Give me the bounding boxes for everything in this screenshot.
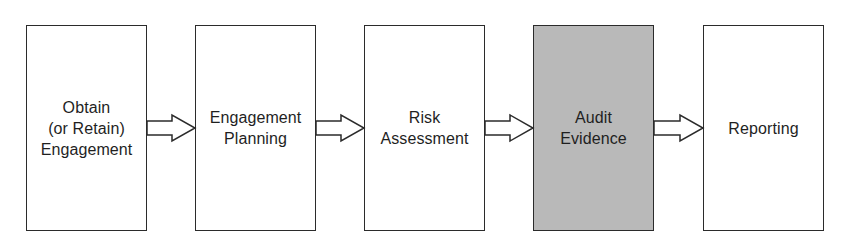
step-audit-evidence: Audit Evidence (533, 25, 654, 231)
step-label: Audit Evidence (560, 107, 627, 149)
audit-process-diagram: Obtain (or Retain) Engagement Engagement… (0, 0, 847, 242)
step-label: Obtain (or Retain) Engagement (41, 97, 133, 160)
step-obtain-engagement: Obtain (or Retain) Engagement (26, 25, 147, 231)
arrow-right-icon (316, 115, 364, 141)
step-reporting: Reporting (703, 25, 824, 231)
arrow-right-icon (654, 115, 703, 141)
step-label: Risk Assessment (380, 107, 468, 149)
step-engagement-planning: Engagement Planning (195, 25, 316, 231)
arrow-right-icon (147, 115, 195, 141)
step-label: Engagement Planning (210, 107, 302, 149)
arrow-right-icon (485, 115, 533, 141)
step-label: Reporting (728, 118, 798, 139)
step-risk-assessment: Risk Assessment (364, 25, 485, 231)
